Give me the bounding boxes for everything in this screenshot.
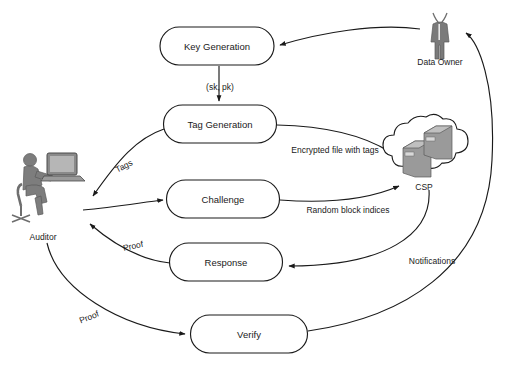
actor-label-data-owner: Data Owner [417,57,462,67]
actor-label-csp: CSP [415,182,432,192]
node-shape-response[interactable] [170,243,283,281]
actor-label-auditor: Auditor [30,232,57,242]
edge-auditor-to-verify [47,243,185,334]
node-shape-challenge[interactable] [167,180,280,218]
edge-response-to-auditor [90,224,170,263]
edge-taggen-to-csp [277,125,390,152]
data-owner-icon [431,13,449,59]
node-shape-key-generation[interactable] [160,27,274,65]
edge-challenge-to-csp [280,186,399,201]
csp-cloud-icon [383,114,468,177]
edge-auditor-to-challenge [83,200,163,210]
node-shape-tag-generation[interactable] [164,105,277,143]
auditor-icon [12,153,85,222]
node-shape-verify[interactable] [191,315,308,353]
edge-verify-to-owner [308,33,493,331]
edge-taggen-to-auditor [93,129,164,196]
diagram-canvas: Key Generation Tag Generation Challenge … [0,0,531,369]
edge-owner-to-keygen [280,27,420,45]
diagram-edges-layer [0,0,531,369]
